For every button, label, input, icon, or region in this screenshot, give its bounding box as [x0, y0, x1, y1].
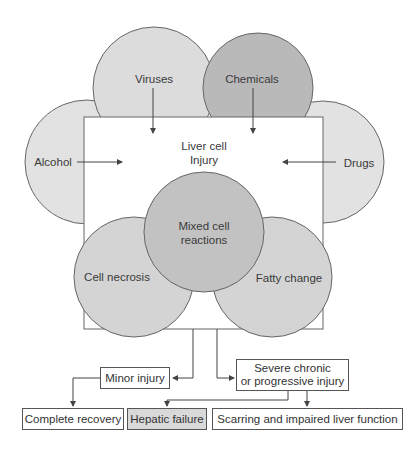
chemicals-label: Chemicals [225, 72, 279, 86]
center-line-1: Liver cell [181, 139, 226, 153]
fatty-change-label: Fatty change [256, 271, 322, 285]
minor-injury-box: Minor injury [100, 367, 170, 389]
mixed-cell-label: Mixed cell reactions [178, 219, 229, 247]
severe-line-1: Severe chronic [254, 362, 331, 375]
center-line-2: Injury [181, 153, 226, 167]
mixed-line-1: Mixed cell [178, 219, 229, 233]
mixed-line-2: reactions [178, 233, 229, 247]
to-severe-arrow [217, 329, 234, 378]
severe-line-2: or progressive injury [241, 375, 345, 388]
viruses-label: Viruses [135, 72, 173, 86]
cell-necrosis-label: Cell necrosis [84, 270, 150, 284]
liver-cell-injury-label: Liver cell Injury [181, 139, 226, 167]
complete-recovery-box: Complete recovery [22, 408, 124, 430]
scarring-box: Scarring and impaired liver function [212, 408, 403, 430]
minor-to-recovery-arrow [73, 378, 100, 406]
drugs-label: Drugs [344, 156, 375, 170]
hepatic-failure-box: Hepatic failure [127, 408, 207, 430]
to-minor-arrow [173, 329, 193, 378]
severe-injury-box: Severe chronic or progressive injury [236, 359, 349, 391]
severe-to-hepatic-arrow [167, 391, 288, 406]
alcohol-label: Alcohol [34, 155, 72, 169]
